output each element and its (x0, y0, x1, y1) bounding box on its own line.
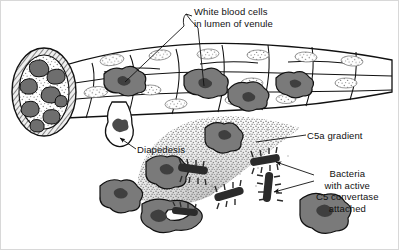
migrating-wbc (205, 123, 243, 153)
label-bacteria: Bacteria with active C5 convertase attac… (316, 168, 379, 214)
venule-cut-end (12, 48, 76, 136)
label-diapedesis: Diapedesis (137, 144, 185, 156)
wbc-in-lumen (184, 68, 228, 98)
wbc-in-lumen (104, 66, 146, 96)
label-white-blood-cells: White blood cells in lumen of venule (194, 6, 273, 29)
label-c5a-gradient: C5a gradient (307, 130, 363, 142)
diapedesis-cell (105, 102, 133, 147)
